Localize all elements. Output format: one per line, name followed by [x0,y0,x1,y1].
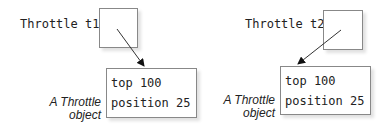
arrow-t1-icon [117,29,144,66]
arrow-t2-icon [298,30,341,64]
reference-arrows [0,0,391,126]
